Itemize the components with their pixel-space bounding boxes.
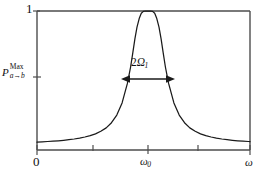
resonance-lineshape-figure: 1 PMaxa→b 0 ω0 ω 2Ω1 bbox=[0, 0, 261, 177]
resonance-curve bbox=[37, 11, 250, 142]
pmax-subscript: a→b bbox=[10, 72, 25, 80]
x-axis-variable-label: ω bbox=[245, 157, 253, 168]
x-axis-center-label: ω0 bbox=[140, 156, 152, 167]
plot-canvas bbox=[0, 0, 261, 177]
width-double-arrow bbox=[121, 75, 175, 82]
omega0-subscript: 0 bbox=[147, 160, 151, 169]
x-axis-origin-label: 0 bbox=[33, 155, 40, 168]
width-symbol: Ω bbox=[137, 56, 145, 68]
width-subscript: 1 bbox=[145, 61, 149, 70]
width-annotation-label: 2Ω1 bbox=[131, 57, 149, 69]
pmax-superscript: Max bbox=[10, 63, 25, 71]
axis-frame bbox=[37, 11, 250, 150]
y-axis-max-tick-label: 1 bbox=[26, 2, 33, 15]
y-axis-pmax-label: PMaxa→b bbox=[2, 66, 25, 81]
pmax-base: P bbox=[2, 66, 9, 78]
pmax-script-stack: Maxa→b bbox=[10, 65, 25, 80]
